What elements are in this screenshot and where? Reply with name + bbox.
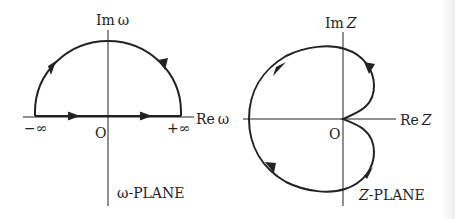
omega-plane-label: ω-PLANE [117,185,184,201]
arrow-down-left-icon [48,61,56,75]
z-plane-panel: ImZ ReZ O Z-PLANE [243,15,432,206]
omega-imag-axis-label: Imω [96,12,129,28]
z-plane-label: Z-PLANE [358,187,425,203]
arrow-up-right-icon [364,167,373,179]
arrow-up-icon [364,62,375,74]
z-real-axis-label: ReZ [400,112,432,128]
arrow-right-icon [140,112,152,121]
complex-plane-mapping-diagram: Imω Reω −∞ +∞ O ω-PLANE ImZ [0,0,455,219]
pos-infinity-label: +∞ [167,120,190,136]
z-imag-axis-label: ImZ [325,15,357,31]
omega-origin-label: O [95,125,106,141]
page-edge-shading [441,0,455,219]
omega-real-axis-label: Reω [196,111,229,127]
omega-plane-panel: Imω Reω −∞ +∞ O ω-PLANE [23,12,229,206]
neg-infinity-label: −∞ [24,120,47,136]
z-origin-label: O [329,126,340,142]
arrow-right-icon [68,112,80,121]
